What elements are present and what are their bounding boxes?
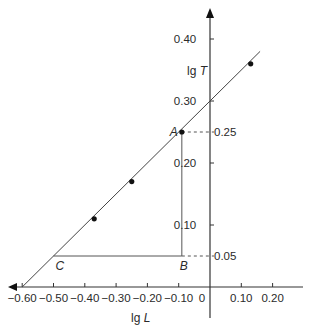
data-point bbox=[179, 129, 184, 134]
x-tick-label: −0.20 bbox=[133, 292, 162, 304]
x-tick-label: 0.20 bbox=[261, 292, 283, 304]
x-tick-label: −0.40 bbox=[70, 292, 99, 304]
guide-lines bbox=[54, 132, 215, 256]
y-tick-label: 0.10 bbox=[174, 219, 196, 231]
x-tick-label: −0.30 bbox=[102, 292, 131, 304]
point-annotations: ABC bbox=[56, 125, 188, 273]
x-axis-arrow-icon bbox=[8, 283, 17, 291]
x-tick-label: −0.50 bbox=[39, 292, 68, 304]
y-tick-label: 0.25 bbox=[214, 126, 236, 138]
x-axis-label: lg L bbox=[131, 311, 150, 325]
y-tick-label: 0.40 bbox=[174, 33, 196, 45]
y-tick-label: 0.05 bbox=[214, 250, 236, 262]
y-axis-label: lg T bbox=[187, 64, 209, 78]
x-tick-label: −0.10 bbox=[164, 292, 193, 304]
axes bbox=[8, 8, 303, 318]
tick-labels: −0.60−0.50−0.40−0.30−0.20−0.1000.100.200… bbox=[8, 33, 284, 304]
y-tick-label: 0.30 bbox=[174, 95, 196, 107]
point-label-b: B bbox=[180, 259, 188, 273]
x-tick-label: 0.10 bbox=[230, 292, 252, 304]
x-tick-label: 0 bbox=[199, 292, 205, 304]
data-point bbox=[92, 216, 97, 221]
x-tick-label: −0.60 bbox=[8, 292, 37, 304]
point-label-a: A bbox=[169, 125, 178, 139]
data-point bbox=[248, 61, 253, 66]
data-points bbox=[92, 61, 254, 221]
lg-t-vs-lg-l-chart: −0.60−0.50−0.40−0.30−0.20−0.1000.100.200… bbox=[0, 0, 313, 331]
y-tick-label: 0.20 bbox=[174, 157, 196, 169]
y-axis-arrow-icon bbox=[206, 8, 214, 18]
data-point bbox=[129, 179, 134, 184]
point-label-c: C bbox=[56, 259, 65, 273]
